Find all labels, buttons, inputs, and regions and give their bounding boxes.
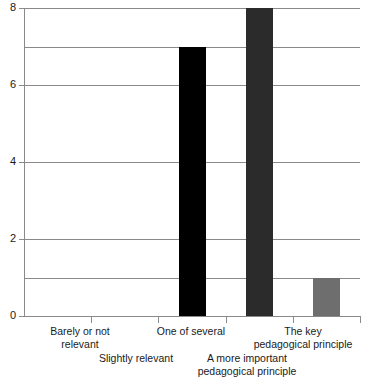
x-tick-mark-5 [360,317,361,323]
x-category-label-4: The key pedagogical principle [233,325,367,350]
bar-chart: 86420 Barely or not relevantSlightly rel… [0,0,367,385]
bar-2 [179,47,206,317]
x-tick-mark-4 [293,317,294,323]
x-tick-mark-1 [91,317,92,323]
bar-series [24,8,360,316]
y-tick-mark-0 [19,316,24,317]
gridline-0 [24,316,360,317]
bar-4 [313,278,340,317]
y-tick-label: 8 [0,2,16,13]
y-tick-label: 4 [0,156,16,167]
x-tick-mark-3 [226,317,227,323]
x-category-label-3: A more important pedagogical principle [177,352,317,377]
y-tick-label: 6 [0,79,16,90]
y-tick-label: 2 [0,233,16,244]
x-tick-mark-2 [158,317,159,323]
bar-3 [246,8,273,316]
y-tick-label: 0 [0,310,16,321]
